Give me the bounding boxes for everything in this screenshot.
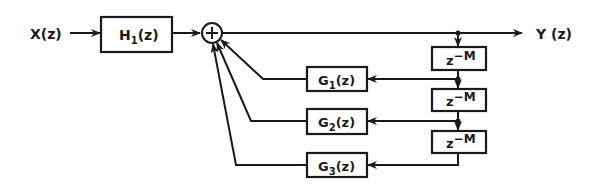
g1-output-arrow [221, 40, 307, 79]
g2-output-arrow [217, 43, 307, 121]
output-label: Y (z) [535, 26, 572, 42]
h1-block: H1(z) [101, 17, 172, 52]
delay-block-2: z−M [432, 89, 486, 111]
block-diagram: X(z) H1(z) Y (z) z−M z−M z−M G1(z) [0, 0, 602, 187]
input-label: X(z) [30, 26, 62, 42]
summing-junction [202, 23, 222, 43]
g1-block: G1(z) [307, 67, 367, 91]
g3-block: G3(z) [307, 153, 367, 177]
g3-input-arrow [368, 153, 458, 165]
g2-block: G2(z) [307, 109, 367, 134]
delay-block-3: z−M [432, 131, 486, 153]
delay-block-1: z−M [432, 47, 486, 70]
g3-output-arrow [213, 44, 307, 165]
